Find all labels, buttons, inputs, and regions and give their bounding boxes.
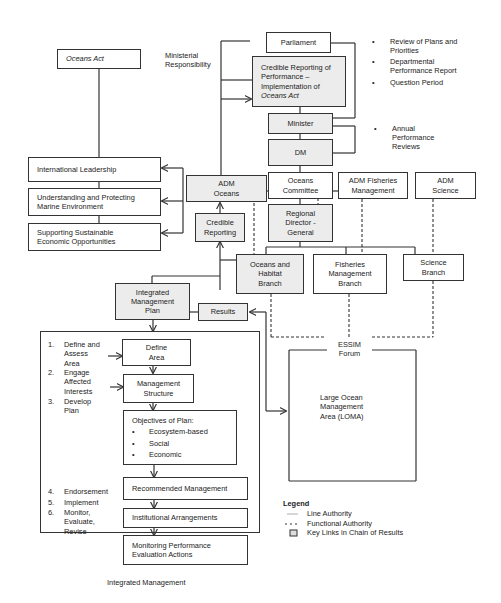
management-structure-box: ManagementStructure (123, 374, 194, 403)
step-6: 6. Monitor,Evaluate,Revise (48, 508, 118, 536)
step-1: 1. Define andAssessArea (48, 340, 108, 368)
parliament-bullets: • Review of Plans and Priorities • Depar… (372, 37, 497, 117)
parliament-box: Parliament (266, 32, 331, 53)
steps-bottom-list: 4. Endorsement 5. Implement 6. Monitor,E… (48, 487, 118, 536)
understanding-protecting-box: Understanding and ProtectingMarine Envir… (28, 188, 161, 216)
institutional-arrangements-box: Institutional Arrangements (123, 508, 248, 528)
science-branch-box: ScienceBranch (403, 254, 464, 281)
dm-bullets: • Annual Performance Reviews (374, 124, 474, 154)
regional-director-box: RegionalDirector -General (268, 204, 333, 242)
objective-item: •Economic (132, 449, 208, 461)
legend-line-authority: Line Authority (307, 509, 352, 518)
integrated-management-plan-box: IntegratedManagementPlan (115, 283, 190, 320)
adm-fisheries-box: ADM FisheriesManagement (338, 172, 408, 199)
step-3: 3. DevelopPlan (48, 397, 108, 417)
objective-item: •Ecosystem-based (132, 426, 208, 438)
integrated-management-caption: Integrated Management (107, 578, 185, 587)
adm-science-box: ADMScience (415, 172, 476, 199)
essim-forum-label: ESSIMForum (327, 340, 372, 359)
define-area-box: DefineArea (122, 339, 191, 366)
step-2: 2. EngageAffectedInterests (48, 368, 108, 397)
adm-oceans-box: ADMOceans (186, 175, 267, 202)
ministerial-responsibility-label: Ministerial Responsibility (165, 51, 211, 70)
oceans-act-box: Oceans Act (57, 49, 141, 69)
steps-top-list: 1. Define andAssessArea 2. EngageAffecte… (48, 340, 108, 417)
objective-item: •Social (132, 438, 208, 450)
supporting-sustainable-box: Supporting SustainableEconomic Opportuni… (28, 223, 161, 251)
legend-key-links: Key Links in Chain of Results (307, 528, 403, 537)
objectives-box: Objectives of Plan: •Ecosystem-based •So… (123, 410, 237, 465)
fisheries-management-branch-box: FisheriesManagementBranch (313, 254, 387, 294)
monitoring-performance-box: Monitoring PerformanceEvaluation Actions (123, 535, 248, 565)
legend-title: Legend (283, 499, 309, 508)
oceans-committee-box: OceansCommittee (268, 172, 333, 199)
international-leadership-box: International Leadership (28, 157, 161, 182)
dm-box: DM (268, 139, 333, 166)
minister-box: Minister (268, 113, 333, 134)
step-4: 4. Endorsement (48, 487, 118, 498)
oceans-habitat-branch-box: Oceans andHabitatBranch (236, 254, 304, 294)
results-box: Results (198, 303, 248, 321)
loma-label: Large OceanManagementArea (LOMA) (320, 393, 364, 421)
recommended-management-box: Recommended Management (123, 477, 248, 500)
step-5: 5. Implement (48, 498, 118, 508)
credible-reporting-box: CredibleReporting (195, 213, 245, 242)
credible-reporting-performance-box: Credible Reporting of Performance – Impl… (252, 56, 346, 107)
oceans-act-label: Oceans Act (66, 54, 104, 63)
legend-functional-authority: Functional Authority (307, 519, 372, 528)
